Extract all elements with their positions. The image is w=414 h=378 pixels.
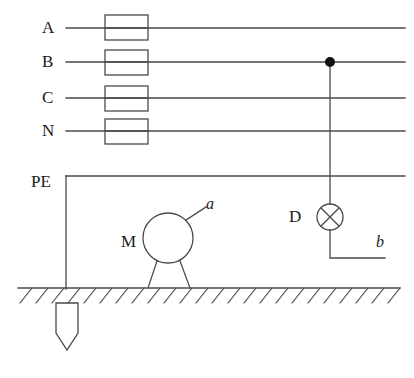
earth-electrode	[56, 303, 78, 350]
label-motor-fault-a: a	[206, 196, 214, 212]
motor-leg-left	[148, 261, 157, 288]
ground-hatching	[20, 288, 400, 303]
label-neutral-n: N	[42, 122, 54, 139]
motor-circle	[143, 213, 193, 263]
label-motor-m: M	[121, 233, 136, 250]
pe-conductor	[66, 176, 405, 289]
ground-symbol	[18, 288, 400, 303]
label-lamp-fault-b: b	[376, 234, 384, 250]
motor-fault-leader-a	[186, 207, 206, 220]
earth-rod-body	[56, 303, 78, 350]
neutral-line-n	[66, 119, 405, 144]
junction-dot-phase-b	[325, 57, 335, 67]
label-pe: PE	[31, 173, 51, 190]
phase-line-a	[66, 15, 405, 40]
label-phase-c: C	[42, 89, 53, 106]
phase-line-b	[66, 50, 405, 75]
label-phase-b: B	[42, 53, 53, 70]
motor-symbol-m	[143, 207, 206, 288]
phase-line-c	[66, 86, 405, 111]
circuit-diagram: A B C N PE M a D b	[0, 0, 414, 378]
lamp-symbol-d	[317, 204, 385, 258]
motor-leg-right	[180, 261, 190, 288]
circuit-diagram-canvas	[0, 0, 414, 378]
label-lamp-d: D	[289, 208, 301, 225]
label-phase-a: A	[42, 19, 54, 36]
